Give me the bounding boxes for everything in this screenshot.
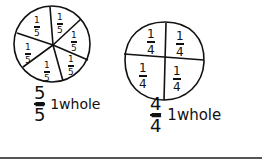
divider-line <box>0 157 262 159</box>
section-label: 14 <box>147 28 155 56</box>
fraction-five-fifths: 55 <box>34 84 45 124</box>
fourths-equation: 44 = 1whole <box>150 106 221 124</box>
section-label: 15 <box>44 61 50 83</box>
section-label: 14 <box>173 65 181 93</box>
worksheet-drawing: 15 15 15 15 15 15 14 14 14 14 55 = 1whol… <box>0 0 262 163</box>
section-label: 14 <box>139 62 147 90</box>
section-label: 15 <box>25 43 31 65</box>
section-label: 15 <box>71 31 77 53</box>
fifths-equation: 55 = 1whole <box>34 96 100 112</box>
fraction-four-fourths: 44 <box>150 95 161 135</box>
section-label: 14 <box>176 30 184 58</box>
section-label: 15 <box>68 55 74 77</box>
section-label: 15 <box>57 13 63 35</box>
fourths-circle <box>124 22 204 100</box>
section-label: 15 <box>34 16 40 38</box>
